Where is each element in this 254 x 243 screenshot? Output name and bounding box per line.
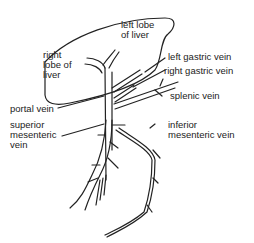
label-portal-vein: portal vein <box>10 104 54 114</box>
label-splenic-vein: splenic vein <box>170 91 220 101</box>
label-right-gastric-vein: right gastric vein <box>164 66 233 76</box>
label-inferior-mesenteric-vein: inferior mesenteric vein <box>168 120 235 140</box>
label-left-lobe: left lobe of liver <box>121 20 154 40</box>
label-left-gastric-vein: left gastric vein <box>168 52 231 62</box>
label-superior-mesenteric-vein: superior mesenteric vein <box>10 120 56 150</box>
label-right-lobe: right lobe of liver <box>43 50 72 80</box>
